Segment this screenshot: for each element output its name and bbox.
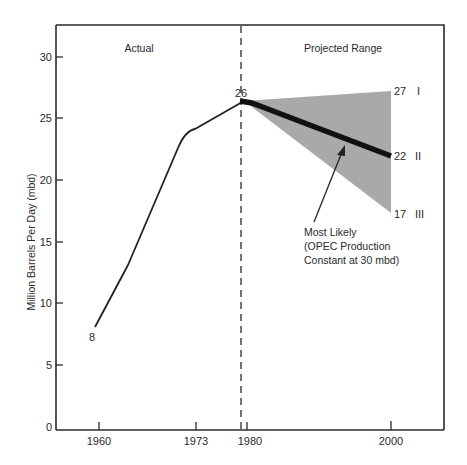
x-tick-1960: 1960 bbox=[87, 435, 111, 447]
actual-region-label: Actual bbox=[124, 42, 153, 54]
y-tick-10: 10 bbox=[40, 297, 52, 309]
y-tick-labels: 30 25 20 15 10 5 0 bbox=[40, 51, 52, 433]
most-likely-line2: (OPEC Production bbox=[304, 240, 391, 252]
most-likely-line3: Constant at 30 mbd) bbox=[304, 254, 399, 266]
x-ticks bbox=[99, 421, 391, 430]
x-tick-2000: 2000 bbox=[379, 435, 403, 447]
plot-frame bbox=[56, 25, 444, 430]
start-value-label: 8 bbox=[89, 331, 95, 343]
y-axis-label: Million Barrels Per Day (mbd) bbox=[25, 173, 37, 310]
most-likely-line1: Most Likely bbox=[304, 226, 357, 238]
scenario-ii-value: 22 bbox=[394, 150, 406, 162]
scenario-iii-label: III bbox=[415, 208, 424, 220]
scenario-i-label: I bbox=[417, 85, 420, 97]
scenario-iii-value: 17 bbox=[394, 208, 406, 220]
y-tick-0: 0 bbox=[46, 421, 52, 433]
x-tick-1980: 1980 bbox=[238, 435, 262, 447]
y-ticks bbox=[56, 57, 63, 365]
y-tick-5: 5 bbox=[46, 359, 52, 371]
peak-value-label: 26 bbox=[235, 87, 247, 99]
scenario-i-value: 27 bbox=[394, 85, 406, 97]
actual-line bbox=[95, 101, 244, 327]
x-tick-labels: 1960 1973 1980 2000 bbox=[87, 435, 403, 447]
y-tick-20: 20 bbox=[40, 174, 52, 186]
y-tick-25: 25 bbox=[40, 112, 52, 124]
scenario-ii-label: II bbox=[415, 150, 421, 162]
x-tick-1973: 1973 bbox=[184, 435, 208, 447]
y-tick-15: 15 bbox=[40, 236, 52, 248]
chart: 30 25 20 15 10 5 0 Million Barrels Per D… bbox=[0, 0, 467, 465]
y-tick-30: 30 bbox=[40, 51, 52, 63]
projected-region-label: Projected Range bbox=[304, 42, 382, 54]
